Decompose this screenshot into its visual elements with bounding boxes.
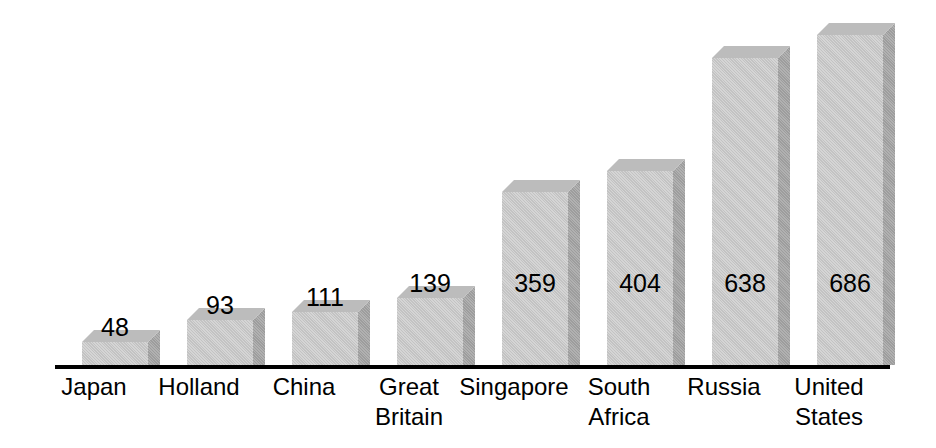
bar-body-russia — [712, 46, 790, 365]
bar-front-face — [187, 320, 253, 365]
bar-chart: 4893111139359404638686 JapanHollandChina… — [0, 0, 936, 448]
bar-body-south-africa — [607, 159, 685, 365]
bar-top-face — [502, 180, 580, 192]
bar-side-face — [778, 46, 790, 365]
bar-front-face — [712, 58, 778, 365]
category-label-japan: Japan — [38, 372, 150, 402]
bar-top-face — [607, 159, 685, 171]
category-label-line: South — [563, 372, 675, 402]
category-label-line: Russia — [668, 372, 780, 402]
bar-front-face — [397, 298, 463, 365]
value-label-japan: 48 — [82, 314, 148, 341]
value-label-great-britain: 139 — [397, 270, 463, 297]
bar-side-face — [673, 159, 685, 365]
bar-side-face — [568, 180, 580, 365]
bar-top-face — [817, 23, 895, 35]
bar-front-face — [82, 342, 148, 365]
bar-united-states — [817, 23, 895, 365]
category-label-line: Britain — [353, 402, 465, 432]
value-label-russia: 638 — [712, 270, 778, 297]
category-label-russia: Russia — [668, 372, 780, 402]
bar-russia — [712, 46, 790, 365]
bar-great-britain — [397, 286, 475, 365]
category-label-holland: Holland — [143, 372, 255, 402]
category-label-south-africa: SouthAfrica — [563, 372, 675, 432]
x-axis-line — [55, 365, 890, 369]
bar-south-africa — [607, 159, 685, 365]
category-label-line: States — [773, 402, 885, 432]
category-label-line: Great — [353, 372, 465, 402]
category-label-singapore: Singapore — [458, 372, 570, 402]
value-label-singapore: 359 — [502, 270, 568, 297]
category-label-line: Holland — [143, 372, 255, 402]
category-axis: JapanHollandChinaGreatBritainSingaporeSo… — [0, 372, 936, 448]
category-label-line: United — [773, 372, 885, 402]
category-label-line: Africa — [563, 402, 675, 432]
bar-front-face — [817, 35, 883, 365]
bar-front-face — [607, 171, 673, 365]
category-label-line: Japan — [38, 372, 150, 402]
bar-side-face — [883, 23, 895, 365]
bar-front-face — [292, 312, 358, 365]
bar-side-face — [463, 286, 475, 365]
category-label-line: China — [248, 372, 360, 402]
category-label-china: China — [248, 372, 360, 402]
category-label-great-britain: GreatBritain — [353, 372, 465, 432]
bar-body-united-states — [817, 23, 895, 365]
category-label-united-states: UnitedStates — [773, 372, 885, 432]
value-label-united-states: 686 — [817, 270, 883, 297]
value-label-holland: 93 — [187, 292, 253, 319]
bar-body-great-britain — [397, 286, 475, 365]
value-label-china: 111 — [292, 284, 358, 311]
category-label-line: Singapore — [458, 372, 570, 402]
value-label-south-africa: 404 — [607, 270, 673, 297]
bar-top-face — [712, 46, 790, 58]
plot-area: 4893111139359404638686 — [0, 0, 936, 368]
